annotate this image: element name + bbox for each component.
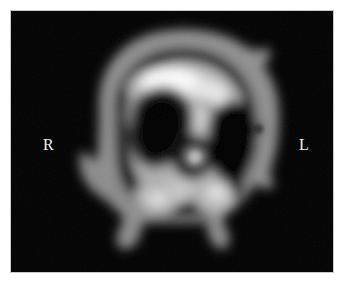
orientation-marker-right: R <box>43 137 54 153</box>
scintigram-figure: R L <box>0 0 346 289</box>
orientation-marker-left: L <box>299 137 309 153</box>
scintigram-image <box>11 11 333 272</box>
scan-frame-border: R L <box>10 10 334 273</box>
scan-canvas <box>11 11 333 272</box>
acquisition-noise <box>11 11 333 272</box>
